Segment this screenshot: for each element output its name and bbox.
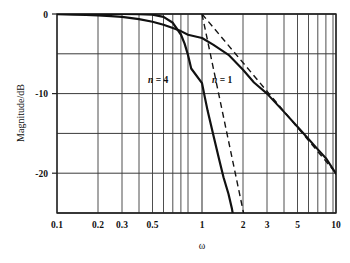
annotation-n1-value: = 1 — [217, 75, 232, 85]
y-tick-label-minus10: -10 — [35, 89, 48, 99]
plot-area-background — [57, 14, 336, 213]
x-tick-label-0.2: 0.2 — [92, 220, 104, 230]
annotation-n4-value: = 4 — [153, 75, 168, 85]
annotation-n1: n = 1 — [212, 75, 232, 85]
x-tick-label-1: 1 — [200, 220, 205, 230]
svg-text:n = 4: n = 4 — [148, 75, 168, 85]
bode-magnitude-figure: 0 -10 -20 0.1 0.2 0.3 0.5 1 2 3 5 10 ω M… — [0, 0, 350, 263]
x-tick-label-10: 10 — [331, 220, 341, 230]
y-tick-label-minus20: -20 — [35, 169, 48, 179]
x-tick-label-3: 3 — [265, 220, 270, 230]
svg-text:n = 1: n = 1 — [212, 75, 232, 85]
annotation-n4: n = 4 — [148, 75, 168, 85]
x-tick-label-0.3: 0.3 — [116, 220, 128, 230]
x-tick-label-0.1: 0.1 — [51, 220, 63, 230]
x-tick-label-0.5: 0.5 — [147, 220, 159, 230]
y-tick-label-0: 0 — [43, 10, 48, 20]
y-axis-ticks — [52, 14, 57, 173]
x-axis-title: ω — [199, 240, 206, 251]
x-tick-label-5: 5 — [295, 220, 300, 230]
x-tick-label-2: 2 — [241, 220, 246, 230]
y-axis-title: Magnitude/dB — [15, 84, 26, 142]
chart-canvas: 0 -10 -20 0.1 0.2 0.3 0.5 1 2 3 5 10 ω M… — [0, 0, 350, 263]
